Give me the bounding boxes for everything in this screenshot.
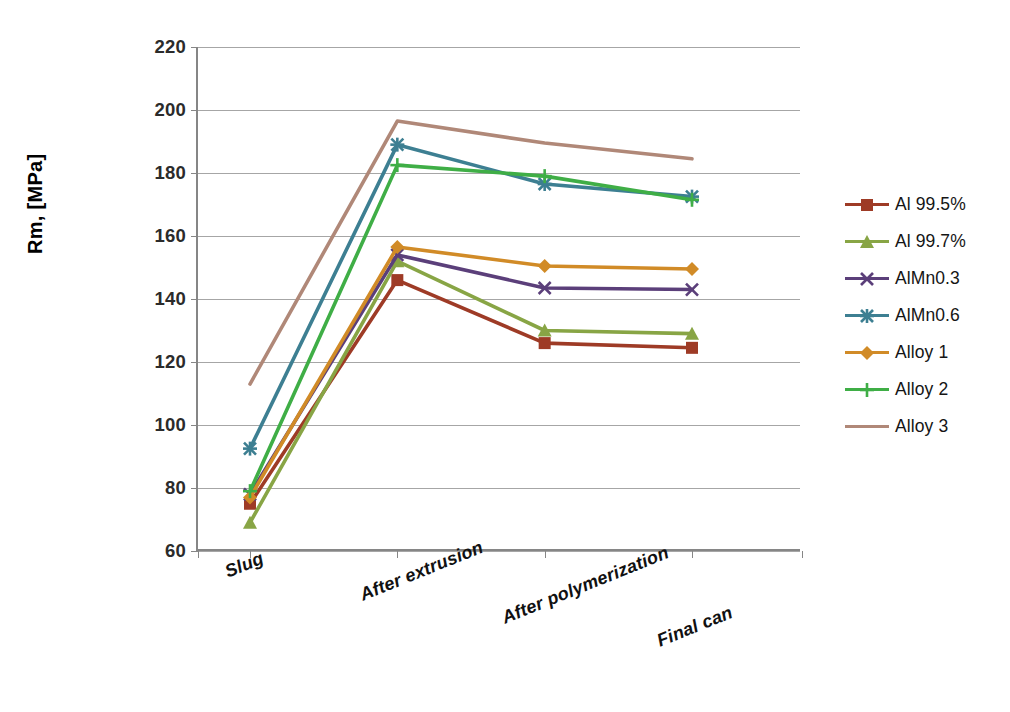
legend-label: Alloy 2 xyxy=(895,379,948,400)
data-point-marker-square xyxy=(391,274,403,286)
y-axis-tick-label: 160 xyxy=(155,225,186,247)
legend-marker-plus xyxy=(858,381,876,399)
series-line xyxy=(250,261,692,522)
x-axis-tick xyxy=(802,551,803,558)
legend-label: Al 99.5% xyxy=(895,194,966,215)
y-axis-tick-label: 200 xyxy=(155,99,186,121)
y-axis-tick xyxy=(191,236,198,237)
legend-marker-asterisk xyxy=(858,307,876,325)
series-line xyxy=(250,165,692,491)
data-point-marker-asterisk xyxy=(860,309,874,323)
y-axis-tick-label: 140 xyxy=(155,288,186,310)
legend-item[interactable]: Al 99.7% xyxy=(845,223,1005,260)
x-axis-tick xyxy=(545,551,546,558)
legend-swatch xyxy=(845,307,889,325)
y-axis-tick xyxy=(191,299,198,300)
data-point-marker-triangle xyxy=(860,235,874,248)
line-chart: Rm, [MPa] 6080100120140160180200220 Slug… xyxy=(0,0,1010,712)
legend-label: Alloy 3 xyxy=(895,416,948,437)
legend-swatch xyxy=(845,418,889,436)
legend-item[interactable]: Alloy 1 xyxy=(845,334,1005,371)
legend-swatch xyxy=(845,381,889,399)
data-point-marker-diamond xyxy=(860,346,874,360)
data-point-marker-diamond xyxy=(685,262,699,276)
x-axis-category-label: Slug xyxy=(222,548,267,582)
legend-item[interactable]: Alloy 2 xyxy=(845,371,1005,408)
legend-item[interactable]: AlMn0.3 xyxy=(845,260,1005,297)
y-axis-tick xyxy=(191,551,198,552)
data-point-marker-square xyxy=(686,342,698,354)
legend-item[interactable]: Al 99.5% xyxy=(845,186,1005,223)
y-axis-tick xyxy=(191,110,198,111)
y-axis-title: Rm, [MPa] xyxy=(24,154,47,254)
data-point-marker-square xyxy=(539,337,551,349)
legend-marker-square xyxy=(858,196,876,214)
data-point-marker-asterisk xyxy=(243,442,257,456)
legend-item[interactable]: AlMn0.6 xyxy=(845,297,1005,334)
data-point-marker-plus xyxy=(860,383,874,397)
y-axis-tick xyxy=(191,362,198,363)
x-axis-tick xyxy=(397,551,398,558)
chart-legend: Al 99.5%Al 99.7%AlMn0.3AlMn0.6Alloy 1All… xyxy=(845,186,1005,445)
y-axis-tick-label: 180 xyxy=(155,162,186,184)
legend-item[interactable]: Alloy 3 xyxy=(845,408,1005,445)
legend-label: Al 99.7% xyxy=(895,231,966,252)
legend-label: AlMn0.6 xyxy=(895,305,960,326)
legend-swatch xyxy=(845,270,889,288)
series-lines xyxy=(198,47,802,551)
data-point-marker-diamond xyxy=(538,259,552,273)
y-axis-tick xyxy=(191,173,198,174)
plot-area: 6080100120140160180200220 xyxy=(196,47,800,551)
y-axis-tick-label: 80 xyxy=(165,477,186,499)
legend-swatch xyxy=(845,344,889,362)
series-line xyxy=(250,247,692,497)
x-axis-tick xyxy=(198,551,199,558)
legend-marker-diamond xyxy=(858,344,876,362)
legend-marker-x xyxy=(858,270,876,288)
gridline xyxy=(198,551,800,552)
y-axis-tick-label: 60 xyxy=(165,540,186,562)
data-point-marker-plus xyxy=(390,158,404,172)
series-line xyxy=(250,255,692,494)
legend-label: AlMn0.3 xyxy=(895,268,960,289)
y-axis-tick-label: 120 xyxy=(155,351,186,373)
y-axis-tick-label: 100 xyxy=(155,414,186,436)
legend-label: Alloy 1 xyxy=(895,342,948,363)
legend-swatch xyxy=(845,196,889,214)
data-point-marker-x xyxy=(861,273,873,285)
data-point-marker-square xyxy=(861,199,873,211)
x-axis-category-label: Final can xyxy=(654,602,736,651)
y-axis-tick-label: 220 xyxy=(155,36,186,58)
y-axis-tick xyxy=(191,47,198,48)
x-axis-tick xyxy=(692,551,693,558)
data-point-marker-asterisk xyxy=(390,138,404,152)
y-axis-tick xyxy=(191,425,198,426)
x-axis-category-label: After polymerization xyxy=(499,542,672,628)
y-axis-tick xyxy=(191,488,198,489)
legend-swatch xyxy=(845,233,889,251)
legend-marker-triangle xyxy=(858,233,876,251)
